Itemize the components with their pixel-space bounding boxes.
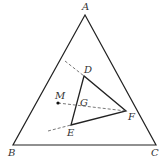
label-m: M	[54, 90, 66, 101]
label-e: E	[66, 127, 75, 138]
label-g: G	[80, 97, 88, 108]
dashed-line-d	[65, 61, 84, 76]
label-d: D	[83, 64, 92, 75]
dashed-line-mf	[58, 103, 126, 111]
point-m	[56, 101, 59, 104]
label-c: C	[151, 147, 159, 158]
label-a: A	[81, 1, 89, 12]
geometry-diagram: A B C D E F G M	[0, 0, 165, 161]
label-f: F	[127, 111, 136, 122]
triangle-abc	[13, 15, 156, 145]
label-b: B	[7, 147, 15, 158]
